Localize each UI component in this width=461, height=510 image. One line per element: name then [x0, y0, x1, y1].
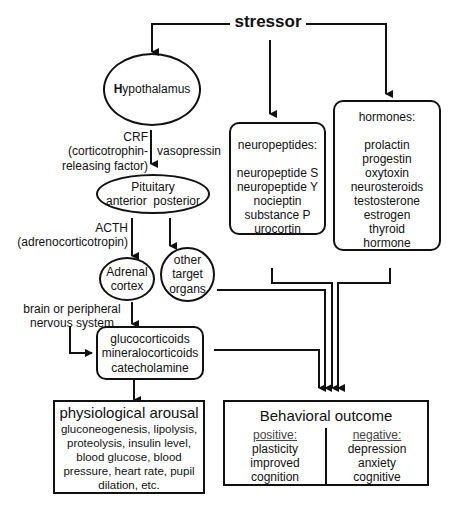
- positive-column: positive: plasticity improved cognition: [225, 428, 325, 484]
- adrenal-cortex-node: Adrenal cortex: [99, 257, 155, 301]
- stressor-label: stressor: [228, 12, 308, 32]
- behavioral-outcome-box: Behavioral outcome positive: plasticity …: [223, 400, 429, 486]
- neuropeptides-box: neuropeptides: neuropeptide S neuropepti…: [229, 122, 326, 235]
- physiological-arousal-box: physiological arousal gluconeogenesis, l…: [53, 400, 205, 494]
- pituitary-title: Pituitary: [131, 180, 174, 194]
- hypothalamus-label: ypothalamus: [122, 82, 190, 96]
- pituitary-anterior: anterior: [106, 194, 147, 208]
- vasopressin-label: vasopressin: [157, 144, 221, 158]
- hypothalamus-initial: H: [114, 82, 123, 96]
- negative-column: negative: depression anxiety cognitive: [327, 428, 427, 484]
- neuropeptides-title: neuropeptides:: [231, 138, 324, 152]
- acth-label: ACTH (adrenocorticotropin): [6, 221, 128, 250]
- behavioral-title: Behavioral outcome: [225, 402, 427, 426]
- pituitary-node: Pituitary anterior posterior: [96, 174, 210, 214]
- positive-heading: positive:: [225, 428, 325, 442]
- hormones-title: hormones:: [335, 110, 439, 124]
- other-target-organs-node: other target organs: [160, 247, 215, 302]
- negative-heading: negative:: [327, 428, 427, 442]
- hormones-box: hormones: prolactin progestin oxytoxin n…: [333, 100, 441, 251]
- hypothalamus-node: Hypothalamus: [103, 53, 201, 126]
- crf-label: CRF (corticotrophin- releasing factor): [58, 130, 148, 173]
- pituitary-posterior: posterior: [153, 194, 200, 208]
- physiological-title: physiological arousal: [55, 404, 203, 422]
- glucocorticoids-box: glucocorticoids mineralocorticoids catec…: [96, 326, 204, 380]
